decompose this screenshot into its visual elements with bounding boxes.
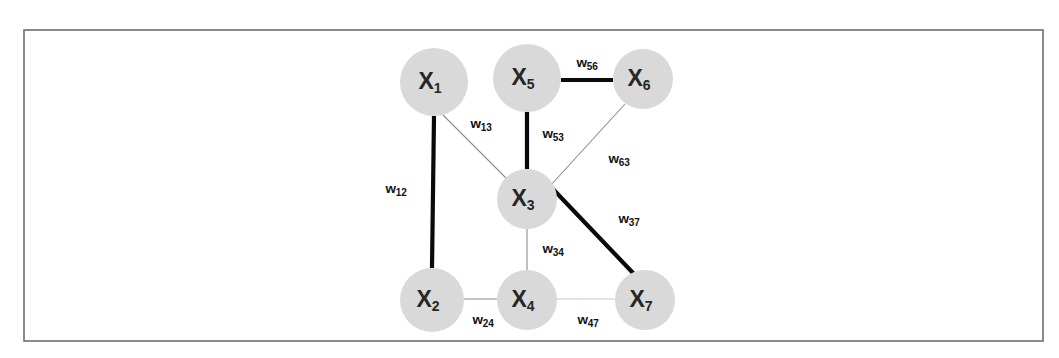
node-X3: X3	[497, 169, 557, 229]
node-X7: X7	[615, 270, 675, 330]
node-X2: X2	[400, 268, 464, 332]
node-X1: X1	[400, 48, 468, 116]
edge-w12	[432, 116, 434, 268]
weighted-graph-svg: w12w13w56w53w63w37w34w24w47 X1X5X6X3X2X4…	[0, 0, 1059, 358]
node-X6: X6	[613, 49, 673, 109]
diagram-canvas: w12w13w56w53w63w37w34w24w47 X1X5X6X3X2X4…	[0, 0, 1059, 358]
node-X5: X5	[493, 44, 561, 112]
node-X4: X4	[497, 270, 557, 330]
